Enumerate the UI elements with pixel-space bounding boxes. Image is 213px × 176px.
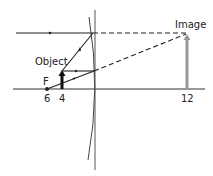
ray-virtual-extension-bottom	[94, 34, 186, 71]
object-label: Object	[35, 56, 68, 67]
ray-refracted-2	[47, 71, 94, 89]
object-arrow	[61, 74, 64, 89]
tick-4: 4	[59, 93, 65, 104]
tick-12: 12	[181, 93, 194, 104]
ray-dot	[49, 32, 52, 35]
ray-diagram: Object Image F 6 4 12	[0, 0, 213, 176]
tick-6: 6	[44, 93, 50, 104]
focal-point-dot	[45, 87, 49, 91]
focal-point-label: F	[43, 76, 49, 87]
image-arrow	[186, 38, 189, 89]
image-label: Image	[175, 19, 206, 30]
